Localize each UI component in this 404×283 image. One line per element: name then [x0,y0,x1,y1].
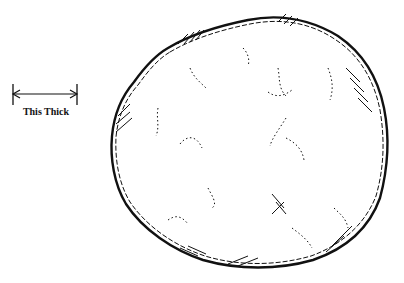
thickness-dimension-arrow [10,82,82,108]
thickness-label: This Thick [0,106,92,117]
patty-sketch [108,8,398,283]
